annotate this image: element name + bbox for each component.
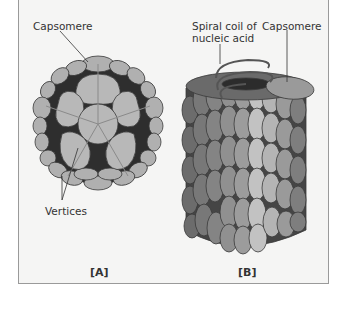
icosahedral-capsid: [33, 56, 163, 190]
capsid-diagram: [0, 0, 343, 309]
panel-label-a: [A]: [90, 266, 109, 279]
capsomere-scales: [182, 76, 306, 254]
panel-label-b: [B]: [238, 266, 256, 279]
label-vertices: Vertices: [45, 205, 87, 217]
label-capsomere-b: Capsomere: [262, 20, 322, 32]
label-capsomere-a: Capsomere: [33, 20, 93, 32]
helical-capsid: [182, 60, 315, 254]
label-spiral-line2: nucleic acid: [192, 32, 254, 44]
label-spiral-line1: Spiral coil of: [192, 20, 257, 32]
